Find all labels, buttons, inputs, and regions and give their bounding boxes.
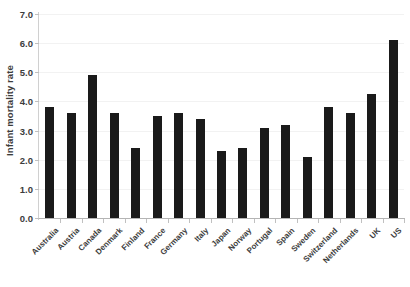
- y-tick-mark: [35, 101, 39, 102]
- x-tick-mark: [297, 219, 298, 223]
- y-tick-mark: [35, 160, 39, 161]
- x-tick-label: Finland: [119, 226, 145, 252]
- y-tick-mark: [35, 218, 39, 219]
- x-tick-mark: [189, 219, 190, 223]
- x-tick-mark: [125, 219, 126, 223]
- x-tick-mark: [103, 219, 104, 223]
- x-tick-mark: [211, 219, 212, 223]
- x-tick-mark: [404, 219, 405, 223]
- x-tick-mark: [146, 219, 147, 223]
- y-tick-mark: [35, 72, 39, 73]
- y-tick-mark: [35, 14, 39, 15]
- chart-screenshot: Infant mortality rate 7.06.05.04.03.02.0…: [0, 0, 410, 287]
- x-tick-mark: [232, 219, 233, 223]
- y-tick-mark: [35, 131, 39, 132]
- x-tick-mark: [383, 219, 384, 223]
- x-tick-label: Italy: [193, 226, 211, 244]
- x-tick-label: UK: [368, 226, 383, 241]
- y-tick-mark: [35, 189, 39, 190]
- x-tick-label: Australia: [30, 226, 61, 257]
- x-tick-label: US: [389, 226, 403, 240]
- x-tick-mark: [82, 219, 83, 223]
- x-tick-mark: [168, 219, 169, 223]
- x-tick-mark: [275, 219, 276, 223]
- x-tick-mark: [318, 219, 319, 223]
- x-tick-mark: [340, 219, 341, 223]
- x-tick-mark: [60, 219, 61, 223]
- x-axis-tick-labels: AustraliaAustriaCanadaDenmarkFinlandFran…: [0, 0, 410, 287]
- y-tick-mark: [35, 43, 39, 44]
- x-tick-mark: [254, 219, 255, 223]
- x-tick-mark: [361, 219, 362, 223]
